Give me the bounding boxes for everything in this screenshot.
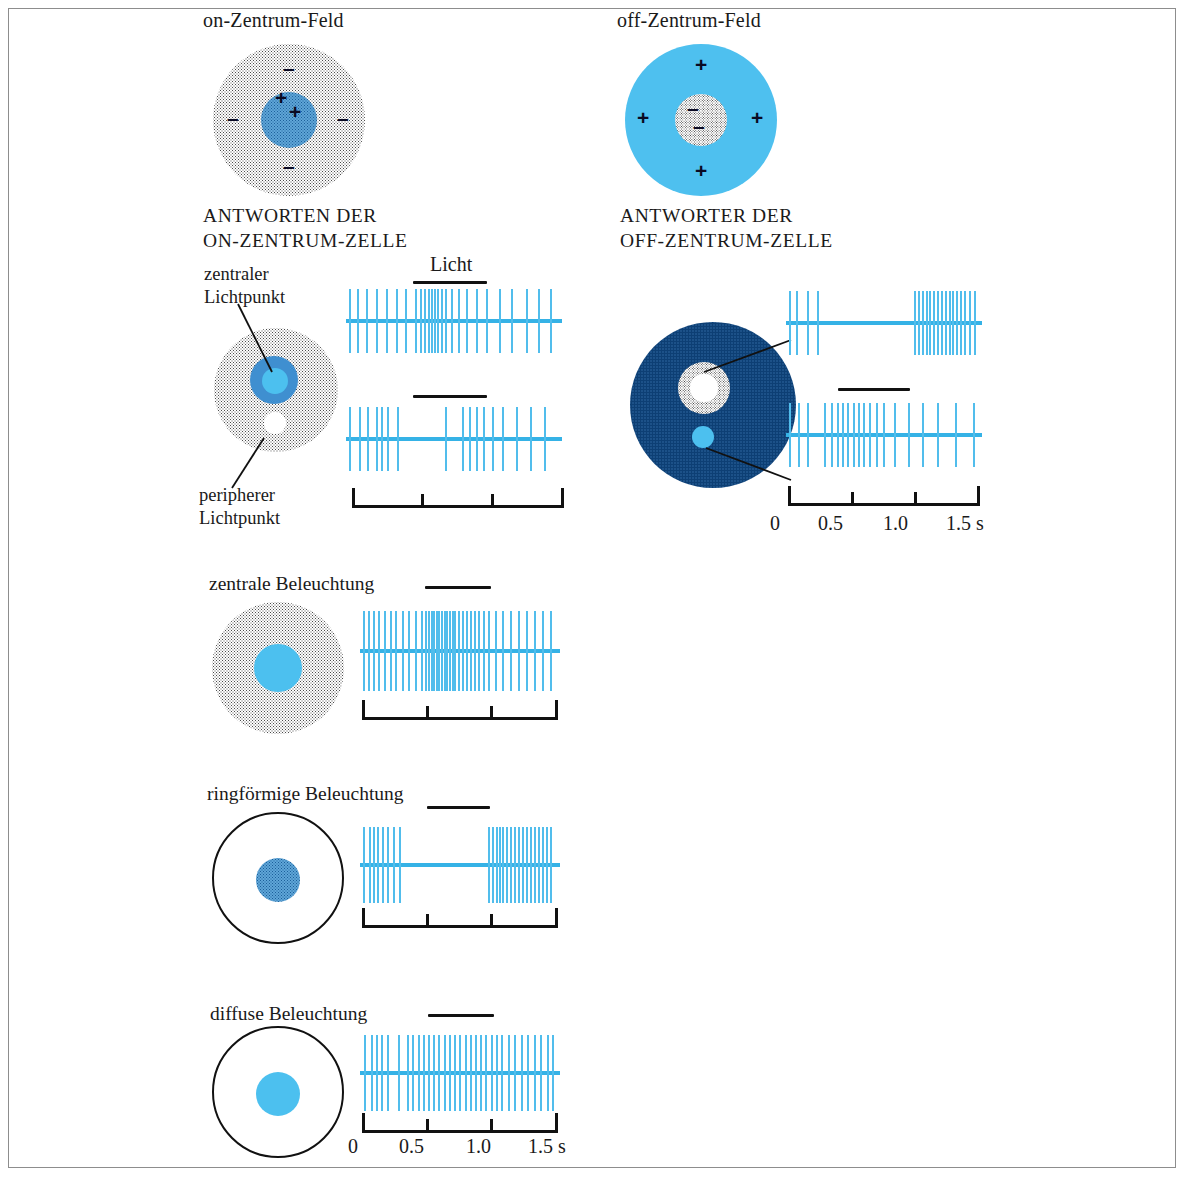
spike — [382, 827, 384, 903]
time-bracket-off-block — [788, 486, 980, 506]
spike — [510, 827, 512, 903]
spike — [831, 403, 833, 467]
spike — [908, 403, 910, 467]
heading-on-center-cell: ANTWORTEN DER ON-ZENTRUM-ZELLE — [203, 203, 408, 253]
spike — [369, 827, 371, 903]
spike — [458, 611, 460, 691]
title-off-center-field: off-Zentrum-Feld — [617, 9, 761, 32]
spike — [363, 611, 365, 691]
spike — [502, 827, 504, 903]
figure-frame — [8, 8, 1176, 1168]
label-diffuse-beleuchtung: diffuse Beleuchtung — [210, 1002, 367, 1025]
spike — [949, 291, 951, 355]
spike — [376, 407, 378, 471]
spike — [381, 407, 383, 471]
spike — [449, 1035, 451, 1111]
spike — [526, 289, 528, 353]
light-bar-trace2 — [413, 395, 487, 398]
spike — [883, 403, 885, 467]
label-ringfoermige-beleuchtung: ringförmige Beleuchtung — [207, 782, 404, 805]
trace-baseline — [346, 319, 562, 323]
title-on-center-field: on-Zentrum-Feld — [203, 9, 344, 32]
spike — [474, 611, 476, 691]
spike — [415, 289, 417, 353]
spike — [516, 407, 518, 471]
spike — [929, 291, 931, 355]
central-illumination-spot — [254, 644, 302, 692]
spike — [445, 407, 447, 471]
spike — [508, 1035, 510, 1111]
light-bar-block4 — [428, 1014, 494, 1017]
heading-off-center-cell: ANTWORTER DER OFF-ZENTRUM-ZELLE — [620, 203, 833, 253]
spike — [534, 827, 536, 903]
spike — [526, 827, 528, 903]
spike — [470, 1035, 472, 1111]
spike — [869, 403, 871, 467]
spike — [488, 611, 490, 691]
spike — [945, 291, 947, 355]
spike — [399, 827, 401, 903]
time-bracket-block2 — [362, 700, 558, 720]
spike — [807, 291, 809, 355]
light-bar-block3 — [427, 806, 490, 809]
light-bar-trace1 — [413, 281, 487, 284]
tick-label-0: 0 — [770, 512, 780, 535]
spike — [789, 291, 791, 355]
spike — [914, 291, 916, 355]
spike — [384, 611, 386, 691]
spike — [510, 611, 512, 691]
spike — [451, 289, 453, 353]
spike — [397, 407, 399, 471]
minus-sign-center-2: – — [693, 115, 705, 136]
spike — [540, 1035, 542, 1111]
spike — [488, 827, 490, 903]
pointer-arrows-block1 — [190, 290, 360, 520]
spike — [956, 291, 958, 355]
spike — [371, 1035, 373, 1111]
spike — [499, 289, 501, 353]
tick-label-15s: 1.5 s — [946, 512, 984, 535]
spike — [349, 289, 351, 353]
spike — [407, 1035, 409, 1111]
spike — [502, 611, 504, 691]
spike — [357, 289, 359, 353]
tick-label-05: 0.5 — [399, 1135, 424, 1158]
center-disc-dark — [256, 858, 300, 902]
spike — [376, 1035, 378, 1111]
time-axis-labels-off: 0 0.5 1.0 1.5 s — [770, 512, 1020, 540]
spike — [546, 827, 548, 903]
spike — [534, 1035, 536, 1111]
spike — [367, 407, 369, 471]
spike — [492, 407, 494, 471]
spike — [538, 289, 540, 353]
spike — [922, 403, 924, 467]
spike — [454, 1035, 456, 1111]
spike — [894, 403, 896, 467]
time-bracket-block1 — [352, 488, 564, 508]
spike — [349, 407, 351, 471]
on-center-field-diagram: + + – – – – — [213, 44, 373, 196]
spike — [518, 611, 520, 691]
spike — [837, 403, 839, 467]
spike — [444, 1035, 446, 1111]
center-disc-light-blue — [256, 1072, 300, 1116]
minus-sign-bottom: – — [283, 155, 295, 176]
spike — [423, 1035, 425, 1111]
spike — [386, 289, 388, 353]
spike — [469, 407, 471, 471]
spike — [421, 611, 423, 691]
spike-trace-central-illumination — [360, 608, 560, 694]
tick-label-10: 1.0 — [883, 512, 908, 535]
spike — [377, 827, 379, 903]
spike — [853, 403, 855, 467]
spike — [437, 289, 439, 353]
spike — [518, 827, 520, 903]
spike — [876, 403, 878, 467]
time-axis-labels-left: 0 0.5 1.0 1.5 s — [348, 1135, 598, 1163]
minus-sign-right: – — [337, 107, 349, 128]
spike — [458, 289, 460, 353]
spike — [847, 403, 849, 467]
time-bracket-block4 — [362, 1113, 558, 1133]
spike — [514, 827, 516, 903]
spike — [530, 827, 532, 903]
